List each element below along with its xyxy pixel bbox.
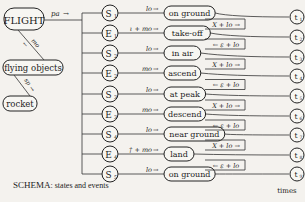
state-label: land (170, 150, 188, 159)
row-1: S1lo→on ground (82, 5, 289, 22)
svg-text:flying objects: flying objects (4, 63, 62, 73)
time-node-2: t2 (290, 30, 304, 44)
time-link (210, 33, 289, 37)
svg-text:rocket: rocket (6, 99, 34, 109)
node-sub: 1 (114, 33, 117, 39)
mo-arrow-icon: ← (21, 40, 30, 48)
state-label: at peak (170, 90, 200, 99)
row-7: S4lo→near ground (82, 126, 289, 143)
time-link (201, 53, 289, 57)
time-sub: 3 (300, 57, 303, 62)
transition-2: ← ε + lo (205, 39, 245, 49)
times-label: times (277, 187, 297, 195)
node-sub: 3 (114, 114, 117, 120)
time-node-7: t7 (290, 128, 304, 142)
time-sub: 4 (300, 76, 303, 81)
transition-label: ← ε + lo (213, 81, 240, 89)
time-sub: 5 (300, 96, 303, 101)
time-link (206, 94, 289, 96)
caption-rest: : states and events (51, 181, 109, 190)
row-2: E1ι + mo→take-off (82, 25, 289, 42)
event-label: lo (146, 166, 152, 174)
event-arrow-icon: → (153, 126, 159, 134)
transition-3: Χ + lo → (205, 59, 245, 69)
transition-label: Χ + lo → (211, 142, 240, 150)
time-sub: 1 (300, 17, 303, 22)
time-label: t (294, 151, 297, 160)
node-label: E (105, 110, 112, 120)
time-link (201, 73, 289, 76)
event-label: lo (146, 126, 152, 134)
time-link (206, 114, 289, 116)
time-sub: 7 (300, 135, 303, 140)
mo-label: mo (30, 37, 42, 49)
row-3: S2lo→in air (82, 45, 289, 62)
time-label: t (294, 170, 297, 179)
node-sub: 4 (114, 154, 117, 160)
state-label: descend (168, 110, 201, 119)
event-arrow-icon: → (153, 45, 159, 53)
transition-label: ← ε + lo (213, 122, 240, 130)
time-sub: 2 (300, 37, 303, 42)
node-sub: 1 (114, 13, 117, 19)
transition-label: ← ε + lo (213, 41, 240, 49)
node-label: E (105, 150, 112, 160)
time-node-3: t3 (290, 50, 304, 64)
event-arrow-icon: → (153, 25, 159, 33)
time-link (215, 13, 289, 17)
node-sub: 4 (114, 134, 117, 140)
event-arrow-icon: → (153, 166, 159, 174)
node-label: S (105, 170, 111, 180)
event-label: mo (142, 106, 152, 114)
node-label: E (105, 29, 112, 39)
time-node-5: t5 (290, 89, 304, 103)
event-label: lo (146, 45, 152, 53)
event-arrow-icon: → (153, 106, 159, 114)
caption-title: SCHEMA (13, 180, 51, 190)
transition-label: Χ + lo → (211, 61, 240, 69)
sp-arrow-icon: → (28, 85, 37, 93)
time-node-8: t8 (290, 148, 304, 162)
time-label: t (294, 72, 297, 81)
time-sub: 8 (300, 155, 303, 160)
row-5: S3lo→at peak (82, 86, 289, 103)
time-node-1: t1 (290, 10, 304, 24)
node-label: S (105, 90, 111, 100)
flight-node: FLIGHT (4, 8, 45, 30)
event-label: † + mo (129, 146, 152, 154)
transition-1: Χ + lo → (205, 19, 245, 29)
time-node-6: t6 (290, 109, 304, 123)
state-label: on ground (169, 9, 211, 18)
svg-text:FLIGHT: FLIGHT (4, 15, 45, 26)
row-4: E2mo→ascend (82, 65, 289, 82)
time-label: t (294, 112, 297, 121)
event-arrow-icon: → (153, 65, 159, 73)
row-9: S5lo→on ground (82, 166, 289, 183)
schema-diagram: FLIGHT flying objects rocket mo ← sp → p… (0, 0, 305, 202)
time-label: t (294, 33, 297, 42)
time-sub: 9 (300, 174, 303, 179)
time-label: t (294, 92, 297, 101)
transition-4: ← ε + lo (205, 80, 245, 90)
time-label: t (294, 13, 297, 22)
time-node-4: t4 (290, 69, 304, 83)
row-8: E4† + mo→land (82, 146, 289, 163)
node-sub: 2 (114, 73, 117, 79)
state-label: near ground (169, 130, 219, 139)
time-link (194, 154, 289, 155)
state-label: ascend (168, 69, 196, 78)
state-label: in air (172, 49, 194, 58)
state-label: on ground (169, 170, 211, 179)
event-label: lo (146, 5, 152, 13)
node-label: S (105, 49, 111, 59)
pa-arrow-icon: → (63, 10, 69, 18)
time-label: t (294, 53, 297, 62)
node-sub: 3 (114, 94, 117, 100)
node-label: S (105, 130, 111, 140)
transition-label: ← ε + lo (213, 162, 240, 170)
event-arrow-icon: → (153, 86, 159, 94)
state-label: take-off (172, 29, 204, 38)
flying-objects-node: flying objects (3, 60, 63, 75)
event-label: mo (142, 65, 152, 73)
time-sub: 6 (300, 116, 303, 121)
